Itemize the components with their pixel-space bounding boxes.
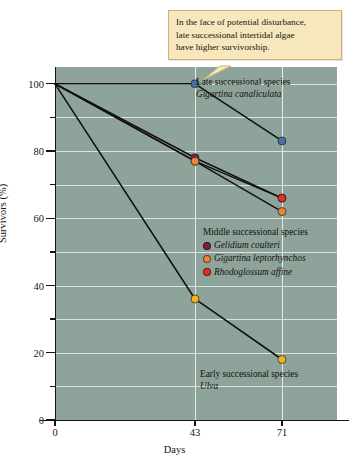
y-tick-label: 100 (28, 78, 44, 89)
gridline-horizontal (55, 353, 337, 354)
gridline-horizontal (55, 218, 337, 219)
gridline-horizontal (55, 319, 337, 320)
gridline-horizontal (55, 151, 337, 152)
x-tick-label: 43 (190, 427, 201, 438)
gridline-vertical (195, 67, 196, 420)
y-tick-major (46, 83, 55, 84)
annotation-late-species: Gigartina canaliculata (196, 89, 281, 99)
callout-line-2: late successional intertidal algae (176, 29, 335, 42)
legend-marker-icon (203, 242, 211, 250)
legend-marker-icon (203, 268, 211, 276)
x-tick (281, 420, 282, 426)
legend-item-label: Rhodoglossum affine (214, 266, 292, 279)
callout-line-1: In the face of potential disturbance, (176, 16, 335, 29)
x-axis-title: Days (0, 444, 349, 455)
y-tick-label: 20 (34, 347, 45, 358)
annotation-late-title: Late successional species (196, 76, 290, 88)
figure-root: In the face of potential disturbance, la… (0, 0, 349, 467)
y-tick-major (46, 218, 55, 219)
legend-item: Gigartina leptorhynchos (203, 252, 308, 265)
legend-rows: Gelidium coulteriGigartina leptorhynchos… (203, 239, 308, 279)
annotation-early-species: Ulva (200, 381, 218, 391)
legend-middle-successional: Middle successional species Gelidium cou… (203, 226, 308, 279)
y-tick-label: 80 (34, 146, 45, 157)
legend-item: Gelidium coulteri (203, 239, 308, 252)
legend-item: Rhodoglossum affine (203, 266, 308, 279)
y-tick-major (46, 285, 55, 286)
callout-box: In the face of potential disturbance, la… (168, 10, 342, 60)
x-tick (54, 420, 55, 426)
legend-item-label: Gelidium coulteri (214, 239, 280, 252)
gridline-horizontal (55, 185, 337, 186)
x-tick (194, 420, 195, 426)
y-tick-label: 60 (34, 213, 45, 224)
legend-title: Middle successional species (203, 226, 308, 239)
legend-marker-icon (203, 255, 211, 263)
x-tick-label: 71 (277, 427, 288, 438)
gridline-horizontal (55, 286, 337, 287)
legend-item-label: Gigartina leptorhynchos (214, 252, 306, 265)
y-tick-minor (50, 318, 55, 319)
y-tick-label: 40 (34, 280, 45, 291)
annotation-early-title: Early successional species (200, 368, 298, 380)
gridline-horizontal (55, 117, 337, 118)
y-tick-major (46, 352, 55, 353)
y-tick-label: 0 (39, 415, 44, 426)
annotation-early-successional: Early successional species Ulva (200, 368, 298, 393)
y-tick-minor (50, 117, 55, 118)
y-tick-minor (50, 386, 55, 387)
callout-line-3: have higher survivorship. (176, 41, 335, 54)
annotation-late-successional: Late successional species Gigartina cana… (196, 76, 290, 101)
y-tick-minor (50, 251, 55, 252)
y-tick-major (46, 150, 55, 151)
y-axis-title: Survivors (%) (0, 184, 8, 243)
x-tick-label: 0 (52, 427, 57, 438)
y-axis-line (55, 67, 56, 420)
y-tick-minor (50, 184, 55, 185)
